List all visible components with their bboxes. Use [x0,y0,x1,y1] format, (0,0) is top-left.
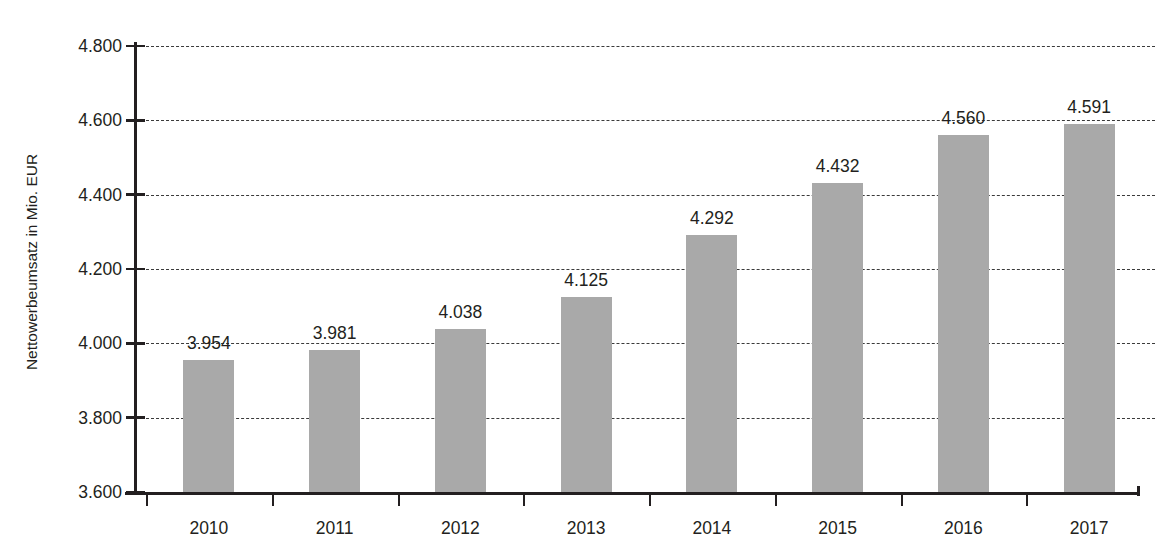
bar-value-label: 4.591 [1067,97,1111,118]
y-axis-tick-label: 4.600 [32,110,122,131]
x-axis-tick-label: 2011 [316,518,354,539]
bar-value-label: 4.125 [564,270,608,291]
bar [1064,124,1115,492]
gridline [136,120,1155,121]
x-axis-line [125,492,1140,495]
x-axis-end-tick [1137,486,1140,496]
chart-figure: Nettowerbeumsatz in Mio. EUR 3.6003.8004… [0,0,1170,552]
chart-title-cropped [0,0,1170,6]
bar [435,329,486,492]
gridline [136,269,1155,270]
y-axis-tick [126,416,145,418]
gridline [136,195,1155,196]
bar-value-label: 4.560 [941,108,985,129]
x-axis-tick-label: 2016 [944,518,983,539]
bar-value-label: 4.432 [816,156,860,177]
gridline [136,46,1155,47]
gridline [136,343,1155,344]
y-axis-tick [126,119,145,121]
bar [309,350,360,492]
y-axis-tick-label: 4.200 [32,259,122,280]
x-axis-tick [775,493,777,506]
x-axis-tick [649,493,651,506]
bar-value-label: 3.954 [187,333,231,354]
y-axis-tick [126,268,145,270]
y-axis-tick-label: 4.000 [32,333,122,354]
x-axis-tick-label: 2015 [818,518,857,539]
x-axis-tick-label: 2013 [567,518,606,539]
bar-value-label: 4.292 [690,208,734,229]
x-axis-tick-label: 2014 [692,518,731,539]
bar [183,360,234,492]
x-axis-tick-label: 2010 [189,518,228,539]
x-axis-tick [146,493,148,506]
x-axis-tick-label: 2017 [1070,518,1109,539]
x-axis-tick [1026,493,1028,506]
bar [561,297,612,492]
y-axis-tick [126,193,145,195]
bar-value-label: 4.038 [438,302,482,323]
x-axis-tick [272,493,274,506]
x-axis-tick [398,493,400,506]
x-axis-tick [901,493,903,506]
bar [938,135,989,492]
y-axis-tick [126,342,145,344]
x-axis-tick [523,493,525,506]
y-axis-tick [126,45,145,47]
y-axis-tick-label: 4.400 [32,184,122,205]
bar [686,235,737,492]
bar [812,183,863,492]
y-axis-tick-label: 3.600 [32,482,122,503]
x-axis-tick-label: 2012 [441,518,480,539]
bar-value-label: 3.981 [313,323,357,344]
y-axis-tick [126,491,145,493]
plot-area: 3.6003.8004.0004.2004.4004.6004.800 3.95… [136,46,1142,492]
y-axis-tick-label: 4.800 [32,36,122,57]
y-axis-tick-label: 3.800 [32,407,122,428]
gridline [136,418,1155,419]
